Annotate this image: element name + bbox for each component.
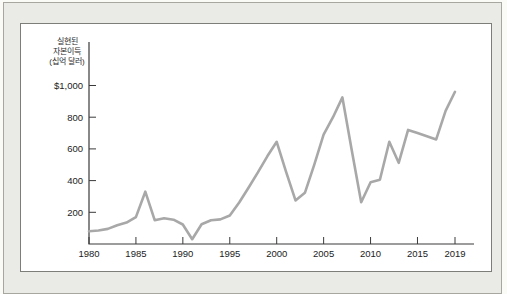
x-tick-label: 1980 <box>78 248 99 259</box>
chart-frame: 실현된 자본이득 (십억 달러) $1,00080060040020019801… <box>3 2 502 294</box>
x-tick-label: 1985 <box>125 248 146 259</box>
x-tick-label: 1995 <box>219 248 240 259</box>
y-tick-label: 800 <box>67 112 83 123</box>
chart-panel: 실현된 자본이득 (십억 달러) $1,00080060040020019801… <box>20 23 492 272</box>
axes <box>89 42 474 244</box>
y-tick-label: 400 <box>67 175 83 186</box>
x-tick-label: 2019 <box>444 248 465 259</box>
x-tick-label: 1990 <box>172 248 193 259</box>
x-tick-label: 2000 <box>266 248 287 259</box>
y-tick-label: 600 <box>67 143 83 154</box>
x-tick-label: 2015 <box>407 248 428 259</box>
capital-gains-line-chart: $1,0008006004002001980198519901995200020… <box>21 24 491 271</box>
x-tick-label: 2010 <box>360 248 381 259</box>
data-line <box>89 92 455 239</box>
x-tick-label: 2005 <box>313 248 334 259</box>
y-tick-label: $1,000 <box>54 80 83 91</box>
y-tick-label: 200 <box>67 207 83 218</box>
